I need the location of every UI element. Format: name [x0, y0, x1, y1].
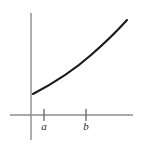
figure-container: a b	[0, 0, 142, 147]
tick-label-a: a	[41, 120, 47, 132]
figure-canvas: a b	[0, 0, 142, 147]
function-curve	[33, 20, 127, 94]
tick-label-b: b	[83, 120, 89, 132]
